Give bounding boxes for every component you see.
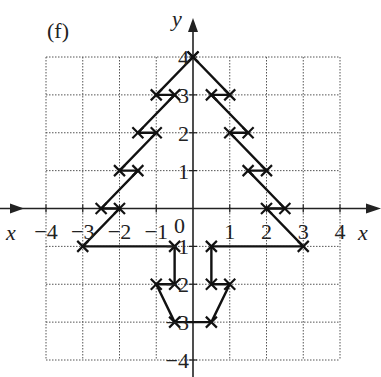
y-tick-label: 1: [178, 159, 189, 184]
x-axis-arrow-icon: [366, 204, 381, 214]
x-tick-label: 4: [335, 219, 346, 244]
y-tick-label: 4: [178, 45, 189, 70]
x-tick-label: 1: [224, 219, 235, 244]
x-axis-label-left: x: [5, 220, 16, 245]
x-tick-label: −1: [145, 219, 168, 244]
x-tick-label: −2: [108, 219, 131, 244]
y-axis-label: y: [170, 6, 182, 31]
y-tick-label: −4: [166, 348, 189, 373]
y-tick-label: −1: [166, 234, 189, 259]
y-tick-label: −2: [166, 272, 189, 297]
x-tick-label: −4: [34, 219, 57, 244]
plot-svg: −4−3−2−101234−4−3−2−11234 (f) y x x: [0, 0, 381, 377]
y-tick-label: 3: [178, 83, 189, 108]
y-tick-label: 2: [178, 121, 189, 146]
x-axis-label-right: x: [357, 220, 368, 245]
figure-label: (f): [47, 18, 69, 43]
x-tick-label: −3: [71, 219, 94, 244]
x-tick-label: 3: [298, 219, 309, 244]
y-tick-label: −3: [166, 310, 189, 335]
x-tick-label: 2: [261, 219, 272, 244]
coordinate-plane-figure: −4−3−2−101234−4−3−2−11234 (f) y x x: [0, 0, 381, 377]
y-axis-arrow-icon: [188, 18, 198, 32]
x-axis-left-arrow-icon: [10, 204, 24, 214]
